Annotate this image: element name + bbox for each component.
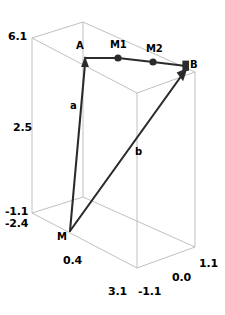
vector-b-shaft: [70, 75, 182, 231]
axis-tick-x-right: 3.1: [108, 286, 127, 297]
point-label-a: A: [76, 41, 84, 51]
path-a-m1-m2-b: [85, 58, 186, 66]
vector-a: [70, 56, 89, 231]
point-label-m2: M2: [146, 44, 163, 54]
point-label-m: M: [57, 232, 67, 242]
point-label-m1: M1: [110, 40, 127, 50]
axis-tick-y-left: -1.1: [138, 286, 161, 297]
axis-tick-y-right: 1.1: [199, 258, 218, 269]
vector-label-a: a: [70, 101, 77, 111]
axis-tick-z-low-secondary: -2.4: [5, 218, 28, 229]
point-marker-m1: [114, 54, 121, 61]
axis-tick-x-left: 0.4: [63, 255, 82, 266]
axis-tick-z-mid: 2.5: [13, 122, 32, 133]
axis-tick-z-low: -1.1: [5, 206, 28, 217]
vector-b: [70, 68, 188, 231]
vector-label-b: b: [135, 147, 142, 157]
plot-canvas: 6.1 2.5 -1.1 -2.4 0.4 3.1 -1.1 0.0 1.1 A…: [0, 0, 225, 315]
point-label-b: B: [190, 60, 197, 70]
point-marker-b: [182, 61, 189, 71]
axis-tick-y-mid: 0.0: [172, 272, 191, 283]
axis-tick-z-top: 6.1: [8, 31, 27, 42]
point-marker-m2: [149, 58, 156, 65]
